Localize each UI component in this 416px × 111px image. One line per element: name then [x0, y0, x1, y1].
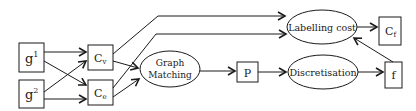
- node-graph-matching-ellipse: [140, 51, 200, 87]
- node-cf-label: Cf: [385, 25, 397, 39]
- node-g2-label: g2: [25, 86, 38, 102]
- node-g1-label: g1: [25, 50, 38, 66]
- node-labelling-cost-label: Labelling cost: [288, 22, 356, 33]
- node-graph-matching-label-line1: Graph: [156, 58, 185, 68]
- node-f-label: f: [391, 69, 396, 82]
- edge-ce-labelling-cost: [113, 34, 286, 88]
- edge-cv-labelling-cost: [113, 16, 285, 54]
- edge-g2-cv: [44, 61, 86, 92]
- node-cv-label: Cv: [94, 52, 106, 66]
- edge-ce-graph-matching: [113, 79, 139, 97]
- edge-g1-ce: [44, 61, 86, 85]
- edge-f-labelling-cost: [354, 38, 393, 62]
- pipeline-diagram: g1 g2 Cv Ce Graph Matching P Discretisat…: [0, 0, 416, 111]
- node-graph-matching-label-line2: Matching: [148, 70, 192, 80]
- node-ce-label: Ce: [94, 87, 107, 101]
- node-p-label: P: [244, 67, 252, 80]
- node-discretisation-label: Discretisation: [289, 67, 356, 78]
